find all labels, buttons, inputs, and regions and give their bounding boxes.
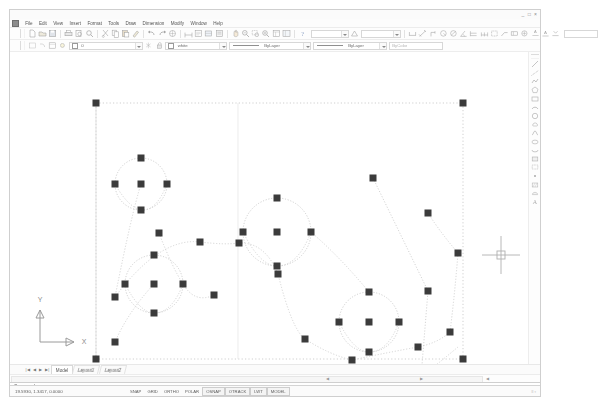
grip[interactable] — [366, 289, 373, 296]
make-object-layer-current-icon[interactable] — [28, 41, 37, 50]
named-views-icon[interactable] — [204, 29, 213, 38]
dim-ordinate-icon[interactable] — [429, 29, 438, 38]
grip[interactable] — [112, 294, 119, 301]
properties-icon[interactable] — [272, 29, 281, 38]
grip[interactable] — [425, 210, 432, 217]
cut-icon[interactable] — [101, 29, 110, 38]
revision-cloud-icon[interactable] — [531, 120, 539, 128]
dim-angular-icon[interactable] — [459, 29, 468, 38]
grip[interactable] — [112, 339, 119, 346]
status-toggle-lwt[interactable]: LWT — [250, 387, 267, 396]
circle-icon[interactable] — [531, 112, 539, 120]
spline-9[interactable] — [125, 284, 183, 313]
grip[interactable] — [197, 239, 204, 246]
nav-last-button[interactable]: ▶| — [44, 365, 51, 375]
layout-nav-buttons[interactable]: |◀ ◀ ▶ ▶| — [10, 365, 51, 375]
grip[interactable] — [447, 329, 454, 336]
line-icon[interactable] — [531, 60, 539, 68]
hatch-icon[interactable] — [531, 181, 539, 189]
status-toggle-polar[interactable]: POLAR — [182, 388, 202, 395]
nav-first-button[interactable]: |◀ — [24, 365, 31, 375]
linetype-combo[interactable]: ByLayer — [229, 42, 311, 50]
block-list-icon[interactable] — [194, 29, 203, 38]
tab-model[interactable]: Model — [51, 365, 74, 375]
menu-item-tools[interactable]: Tools — [105, 19, 122, 28]
tab-layout1[interactable]: Layout1 — [72, 365, 101, 374]
coordinate-display[interactable]: 19.5930, 1.3417, 0.0000 — [10, 389, 127, 394]
match-properties-icon[interactable] — [131, 29, 140, 38]
dim-radius-icon[interactable] — [439, 29, 448, 38]
chevron-down-icon[interactable] — [303, 43, 310, 49]
autocad-app-icon[interactable] — [12, 20, 19, 27]
menu-item-view[interactable]: View — [50, 19, 66, 28]
zoom-realtime-icon[interactable] — [241, 29, 250, 38]
status-toggle-snap[interactable]: SNAP — [127, 388, 144, 395]
layer-state-combo[interactable] — [361, 30, 401, 38]
open-folder-icon[interactable] — [38, 29, 47, 38]
print-icon[interactable] — [64, 29, 73, 38]
spline-5[interactable] — [159, 233, 214, 298]
redo-icon[interactable] — [158, 29, 167, 38]
grip-corner-tr[interactable] — [460, 100, 467, 107]
dim-text-edit-icon[interactable]: A — [541, 29, 550, 38]
menu-item-modify[interactable]: Modify — [167, 19, 187, 28]
grip[interactable] — [275, 271, 282, 278]
spline-icon[interactable] — [531, 129, 539, 137]
grip[interactable] — [112, 181, 119, 188]
dim-diameter-icon[interactable] — [449, 29, 458, 38]
lineweight-combo[interactable]: ByLayer — [313, 42, 387, 50]
grip-corner-tl[interactable] — [93, 100, 100, 107]
menu-item-dimension[interactable]: Dimension — [139, 19, 167, 28]
chevron-down-icon[interactable] — [135, 43, 142, 49]
menu-item-file[interactable]: File — [22, 19, 36, 28]
spline-3[interactable] — [115, 242, 239, 297]
grip[interactable] — [274, 229, 281, 236]
spline-2[interactable] — [373, 178, 428, 364]
dim-style-combo[interactable] — [311, 30, 349, 38]
grip[interactable] — [302, 336, 309, 343]
status-toggle-ortho[interactable]: ORTHO — [161, 388, 182, 395]
grip[interactable] — [138, 155, 145, 162]
toolbar-grip[interactable] — [531, 54, 539, 59]
dim-leader-icon[interactable] — [500, 29, 509, 38]
new-file-icon[interactable] — [28, 29, 37, 38]
spline-15[interactable] — [421, 347, 458, 364]
window-controls[interactable]: _ □ × — [522, 10, 539, 19]
menu-item-help[interactable]: Help — [210, 19, 226, 28]
chevron-down-icon[interactable] — [393, 31, 400, 37]
dim-quick-icon[interactable] — [490, 29, 499, 38]
region-icon[interactable] — [531, 189, 539, 197]
status-bar-end-icons[interactable]: ≡ ▫ — [531, 389, 540, 394]
save-icon[interactable] — [48, 29, 57, 38]
toolbar-grip[interactable] — [20, 41, 25, 50]
ellipse-icon[interactable] — [531, 138, 539, 146]
rectangle-icon[interactable] — [531, 95, 539, 103]
make-block-icon[interactable] — [531, 163, 539, 171]
grip[interactable] — [274, 263, 281, 270]
insert-hyperlink-icon[interactable] — [168, 29, 177, 38]
grip[interactable] — [164, 181, 171, 188]
copy-icon[interactable] — [111, 29, 120, 38]
toolpalettes-icon[interactable] — [215, 29, 224, 38]
pan-realtime-icon[interactable] — [231, 29, 240, 38]
layer-lock-icon[interactable] — [155, 41, 164, 50]
color-combo[interactable]: white — [165, 42, 227, 50]
spline-12[interactable] — [428, 213, 458, 253]
dim-center-mark-icon[interactable] — [520, 29, 529, 38]
layer-properties-icon[interactable] — [48, 41, 57, 50]
point-icon[interactable] — [531, 172, 539, 180]
paste-icon[interactable] — [121, 29, 130, 38]
zoom-previous-icon[interactable] — [261, 29, 270, 38]
grip[interactable] — [211, 292, 218, 299]
polyline-icon[interactable] — [531, 77, 539, 85]
dim-linear-icon[interactable] — [408, 29, 417, 38]
polygon-icon[interactable] — [531, 86, 539, 94]
grip[interactable] — [370, 175, 377, 182]
grip[interactable] — [156, 230, 163, 237]
spline-7[interactable] — [339, 322, 399, 352]
layer-previous-icon[interactable] — [38, 41, 47, 50]
menu-item-window[interactable]: Window — [187, 19, 210, 28]
dim-tolerance-icon[interactable] — [510, 29, 519, 38]
dim-edit-icon[interactable]: A — [531, 29, 540, 38]
grip-corner-br[interactable] — [460, 356, 467, 363]
